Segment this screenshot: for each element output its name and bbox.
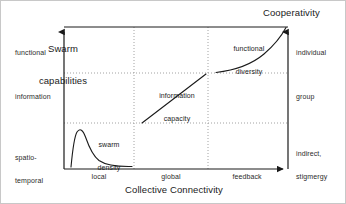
annotation-swarm-density-line2: density [85,164,133,172]
y-axis-left-title-line2: capabilities [21,76,105,87]
y-axis-right-tick-individual: individual [296,49,346,57]
annotation-functional-diversity-line2: diversity [220,68,278,76]
annotation-functional-diversity-line1: functional [220,45,278,53]
annotation-information-capacity-line1: information [146,92,208,100]
y-axis-left-tick-spatio-temporal: spatio- temporal [15,138,61,201]
y-axis-left-tick-functional: functional [15,49,61,57]
y-axis-right-tick-indirect-stigmergy: indirect, stigmergy [296,134,346,197]
figure-container: Swarm capabilities Cooperativity Collect… [0,0,346,204]
y-axis-right-tick-indirect-stigmergy-line1: indirect, [296,150,346,158]
x-axis-tick-global: global [148,173,194,181]
y-axis-right-tick-indirect-stigmergy-line2: stigmergy [296,173,346,181]
annotation-swarm-density-line1: swarm [85,141,133,149]
y-axis-right-tick-group: group [296,93,346,101]
y-axis-left-tick-spatio-temporal-line2: temporal [15,177,61,185]
annotation-functional-diversity: functional diversity [220,29,278,92]
y-axis-left-tick-information: information [15,93,65,101]
annotation-information-capacity-line2: capacity [146,115,208,123]
annotation-swarm-density: swarm density [85,125,133,188]
y-axis-left-tick-spatio-temporal-line1: spatio- [15,154,61,162]
annotation-information-capacity: information capacity [146,76,208,139]
y-axis-right-title: Cooperativity [263,8,346,19]
x-axis-tick-feedback: feedback [222,173,272,181]
